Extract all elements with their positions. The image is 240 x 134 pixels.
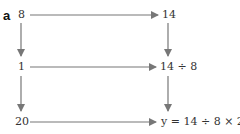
arrow-diagram: [0, 0, 240, 134]
